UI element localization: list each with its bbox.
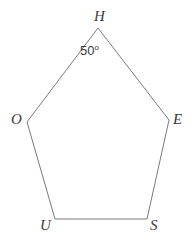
- geometry-figure: H E S U O 50o: [0, 0, 196, 241]
- vertex-label-s: S: [150, 218, 158, 233]
- angle-measure-h: 50o: [80, 44, 99, 57]
- degree-symbol: o: [94, 43, 98, 52]
- vertex-label-e: E: [173, 112, 182, 127]
- angle-value: 50: [80, 43, 94, 58]
- vertex-label-u: U: [40, 218, 51, 233]
- vertex-label-h: H: [94, 9, 105, 24]
- vertex-label-o: O: [11, 112, 22, 127]
- pentagon-shape: [0, 0, 196, 241]
